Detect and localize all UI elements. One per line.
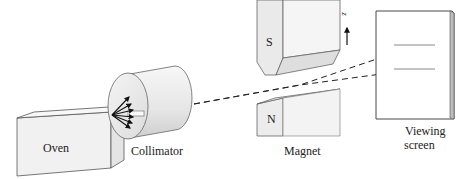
oven-label: Oven — [43, 142, 69, 155]
north-pole-label: N — [267, 112, 276, 127]
magnet-label: Magnet — [284, 145, 321, 158]
collimator-label: Collimator — [131, 145, 183, 158]
viewing-screen — [376, 11, 454, 119]
screen-label-line2: screen — [404, 139, 435, 152]
collimator — [108, 66, 192, 139]
stern-gerlach-diagram: Oven Collimator Magnet Viewing screen S … — [0, 0, 472, 179]
oven — [17, 106, 124, 176]
diagram-graphics — [0, 0, 472, 179]
south-pole-label: S — [266, 35, 273, 50]
screen-label-line1: Viewing — [405, 125, 446, 138]
z-axis-label: z — [340, 12, 350, 16]
